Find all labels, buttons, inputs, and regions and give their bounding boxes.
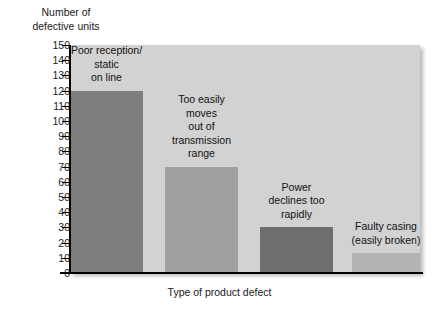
y-tick-20: 20	[0, 243, 70, 244]
y-axis-title: Number of defective units	[6, 6, 126, 33]
y-tick-mark	[62, 121, 70, 122]
y-tick-60: 60	[0, 182, 70, 183]
y-tick-mark	[62, 45, 70, 46]
x-axis-line	[60, 272, 423, 274]
bar-caption: Poor reception/ static on line	[56, 44, 157, 85]
y-tick-mark	[62, 182, 70, 183]
y-tick-mark	[62, 106, 70, 107]
y-tick-30: 30	[0, 227, 70, 228]
y-tick-mark	[62, 197, 70, 198]
y-tick-50: 50	[0, 197, 70, 198]
y-tick-0: 0	[0, 273, 70, 274]
y-tick-mark	[62, 136, 70, 137]
bar	[260, 227, 333, 273]
bar-chart: Number of defective units Poor reception…	[0, 0, 439, 310]
y-tick-mark	[62, 273, 70, 274]
y-tick-mark	[62, 167, 70, 168]
bar	[70, 91, 143, 273]
x-axis-title: Type of product defect	[0, 286, 439, 298]
y-tick-mark	[62, 227, 70, 228]
bar-caption: Faulty casing (easily broken)	[338, 220, 434, 247]
y-tick-mark	[62, 75, 70, 76]
y-tick-mark	[62, 258, 70, 259]
y-tick-150: 150	[0, 45, 70, 46]
y-tick-mark	[62, 60, 70, 61]
bar-caption: Power declines too rapidly	[246, 181, 347, 222]
y-axis-title-line-1: Number of	[6, 6, 126, 20]
plot-area: Poor reception/ static on lineToo easily…	[70, 45, 420, 273]
y-tick-140: 140	[0, 60, 70, 61]
y-tick-80: 80	[0, 151, 70, 152]
y-tick-40: 40	[0, 212, 70, 213]
y-tick-mark	[62, 243, 70, 244]
y-tick-120: 120	[0, 91, 70, 92]
y-axis-title-line-2: defective units	[6, 20, 126, 34]
bar	[352, 253, 420, 273]
y-tick-110: 110	[0, 106, 70, 107]
y-tick-100: 100	[0, 121, 70, 122]
bar-caption: Too easily moves out of transmission ran…	[151, 93, 252, 161]
y-tick-90: 90	[0, 136, 70, 137]
y-tick-130: 130	[0, 75, 70, 76]
bar	[165, 167, 238, 273]
y-tick-10: 10	[0, 258, 70, 259]
y-tick-mark	[62, 212, 70, 213]
y-tick-mark	[62, 151, 70, 152]
y-tick-mark	[62, 91, 70, 92]
y-tick-70: 70	[0, 167, 70, 168]
